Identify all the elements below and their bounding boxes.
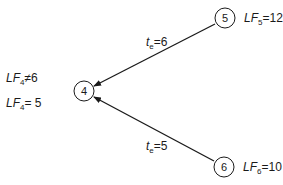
node-5-label: 5	[215, 8, 235, 28]
node4-lf-result: LF4= 5	[6, 96, 41, 110]
edge-5-to-4	[94, 24, 215, 86]
edge-6-4-duration-label: te=5	[146, 139, 167, 153]
node-6-label: 6	[214, 157, 234, 177]
edge-5-4-duration-label: te=6	[146, 35, 167, 49]
node4-lf-rejected: LF4≠6	[6, 71, 38, 85]
node6-lf-annotation: LF6=10	[243, 160, 282, 174]
node5-lf-annotation: LF5=12	[244, 11, 283, 25]
diagram-canvas	[0, 0, 283, 185]
node-4-label: 4	[74, 81, 94, 101]
